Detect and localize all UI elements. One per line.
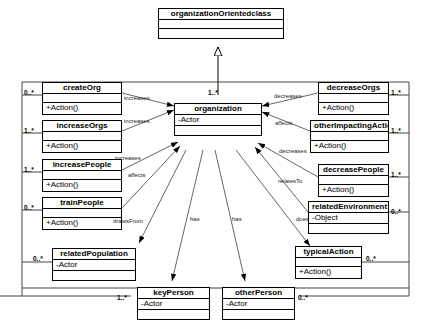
class-name: relatedPopulation xyxy=(53,249,135,260)
class-attributes xyxy=(43,94,121,103)
class-createOrg[interactable]: createOrg +Action() xyxy=(42,82,122,115)
class-typicalAction[interactable]: typicalAction +Action() xyxy=(295,246,362,279)
multiplicity-otherPerson: 0..* xyxy=(298,294,308,301)
edge-label-has-keyPerson: has xyxy=(190,216,200,223)
class-increasePeople[interactable]: increasePeople +Action() xyxy=(42,159,122,192)
class-increaseOrgs[interactable]: increaseOrgs +Action() xyxy=(42,120,122,153)
class-name: increaseOrgs xyxy=(43,121,121,132)
class-organization[interactable]: organization -Actor xyxy=(174,103,262,136)
class-attributes xyxy=(319,94,388,103)
edge-label-decreases-decreaseOrgs: decreases xyxy=(274,93,302,100)
class-name: organization xyxy=(175,104,261,115)
class-name: trainPeople xyxy=(43,198,121,209)
class-name: organizationOrientedclass xyxy=(159,9,283,20)
class-operations: +Action() xyxy=(43,141,121,152)
class-trainPeople[interactable]: trainPeople +Action() xyxy=(42,197,122,230)
multiplicity-otherImpactingAction: 1..* xyxy=(391,127,401,134)
class-attributes: -Object xyxy=(309,213,388,224)
class-organizationOrientedclass[interactable]: organizationOrientedclass xyxy=(158,8,284,39)
edge-label-increases-increasePeople: increases xyxy=(115,155,141,162)
class-operations: +Action() xyxy=(311,141,388,152)
class-name: increasePeople xyxy=(43,160,121,171)
class-attributes xyxy=(43,209,121,218)
multiplicity-relatedEnvironment: 0..* xyxy=(391,208,401,215)
multiplicity-increasePeople: 1..* xyxy=(24,166,34,173)
class-operations: +Action() xyxy=(43,180,121,191)
class-operations xyxy=(223,310,294,319)
multiplicity-increaseOrgs: 1..* xyxy=(24,127,34,134)
class-attributes xyxy=(43,132,121,141)
edge-label-affects-left: affects xyxy=(128,172,146,179)
multiplicity-decreaseOrgs: 1..* xyxy=(391,89,401,96)
class-attributes: -Actor xyxy=(53,260,135,271)
multiplicity-keyPerson: 1..* xyxy=(117,294,127,301)
class-name: decreasePeople xyxy=(319,165,388,176)
class-otherPerson[interactable]: otherPerson -Actor xyxy=(222,287,295,320)
class-attributes: -Actor xyxy=(223,299,294,310)
class-name: otherImpactingAction xyxy=(311,121,388,132)
class-operations xyxy=(159,29,283,38)
edge-label-has-otherPerson: has xyxy=(232,216,242,223)
class-attributes xyxy=(311,132,388,141)
class-operations xyxy=(138,310,209,319)
class-attributes xyxy=(319,176,388,185)
multiplicity-createOrg: 0..* xyxy=(24,89,34,96)
class-name: keyPerson xyxy=(138,288,209,299)
edge-label-drawsFrom: drawsFrom xyxy=(113,218,143,225)
edge-label-does: does xyxy=(296,216,309,223)
multiplicity-trainPeople: 0..* xyxy=(24,204,34,211)
class-attributes xyxy=(296,258,361,267)
class-operations: +Action() xyxy=(319,103,388,114)
edge-label-increases-createOrg: increases xyxy=(124,95,150,102)
class-attributes: -Actor xyxy=(175,115,261,126)
class-operations xyxy=(175,126,261,135)
class-operations: +Action() xyxy=(296,267,361,278)
class-operations: +Action() xyxy=(319,185,388,196)
class-operations: +Action() xyxy=(43,218,121,229)
class-name: relatedEnvironment xyxy=(309,202,388,213)
class-decreasePeople[interactable]: decreasePeople +Action() xyxy=(318,164,389,197)
edge-label-affects-right: affects xyxy=(275,120,293,127)
class-attributes xyxy=(159,20,283,29)
multiplicity-organization-top: 1..* xyxy=(208,89,218,96)
edge-label-increases-increaseOrgs: increases xyxy=(124,118,150,125)
class-keyPerson[interactable]: keyPerson -Actor xyxy=(137,287,210,320)
multiplicity-decreasePeople: 1..* xyxy=(391,171,401,178)
class-attributes: -Actor xyxy=(138,299,209,310)
class-name: decreaseOrgs xyxy=(319,83,388,94)
class-operations xyxy=(53,271,135,280)
class-name: typicalAction xyxy=(296,247,361,258)
multiplicity-typicalAction: 0..* xyxy=(366,255,376,262)
class-attributes xyxy=(43,171,121,180)
class-otherImpactingAction[interactable]: otherImpactingAction +Action() xyxy=(310,120,389,153)
class-decreaseOrgs[interactable]: decreaseOrgs +Action() xyxy=(318,82,389,115)
multiplicity-relatedPopulation: 0..* xyxy=(33,255,43,262)
class-name: createOrg xyxy=(43,83,121,94)
class-operations: +Action() xyxy=(43,103,121,114)
class-relatedPopulation[interactable]: relatedPopulation -Actor xyxy=(52,248,136,281)
edge-label-relatesTo: relatesTo xyxy=(278,178,302,185)
class-operations xyxy=(309,224,388,233)
uml-class-diagram: organizationOrientedclass createOrg +Act… xyxy=(0,0,431,333)
class-name: otherPerson xyxy=(223,288,294,299)
class-relatedEnvironment[interactable]: relatedEnvironment -Object xyxy=(308,201,389,234)
edge-label-decreases-decreasePeople: decreases xyxy=(279,148,307,155)
